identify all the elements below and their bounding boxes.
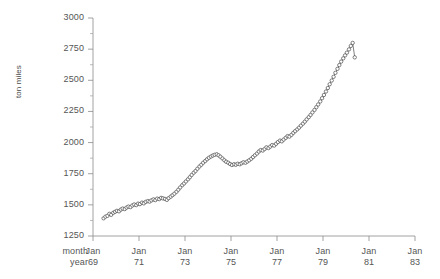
- x-axis-tick-label: Jan77: [257, 246, 297, 268]
- x-axis-row-title-month: month: [62, 246, 88, 256]
- data-series-markers: [102, 41, 357, 220]
- x-axis-tick-month: Jan: [270, 246, 285, 256]
- data-point-marker: [334, 71, 337, 74]
- x-axis-tick-month: Jan: [362, 246, 377, 256]
- x-axis-row-title-year: year: [70, 257, 88, 267]
- y-axis-tick-label: 1250: [36, 230, 84, 240]
- x-axis-tick-label: Jan73: [165, 246, 205, 268]
- data-series-line: [104, 43, 355, 218]
- chart-container: ton miles 125015001750200022502500275030…: [0, 0, 440, 279]
- x-axis-tick-year: 81: [349, 257, 389, 268]
- x-axis-tick-year: 73: [165, 257, 205, 268]
- y-axis-tick-label: 3000: [36, 12, 84, 22]
- x-axis-tick-month: Jan: [224, 246, 239, 256]
- data-point-marker: [336, 67, 339, 70]
- data-point-marker: [338, 63, 341, 66]
- x-axis-tick-label: Jan75: [211, 246, 251, 268]
- y-axis-tick-label: 2500: [36, 74, 84, 84]
- x-axis-tick-month: Jan: [408, 246, 423, 256]
- x-axis-tick-label: Jan79: [303, 246, 343, 268]
- data-point-marker: [330, 79, 333, 82]
- x-axis-tick-label: Jan83: [395, 246, 435, 268]
- x-axis-tick-month: Jan: [316, 246, 331, 256]
- y-axis-tick-label: 2250: [36, 105, 84, 115]
- data-point-marker: [322, 93, 325, 96]
- data-point-marker: [328, 83, 331, 86]
- x-axis-tick-year: 79: [303, 257, 343, 268]
- x-axis-row-titles: month year: [36, 246, 88, 268]
- x-axis-tick-month: Jan: [132, 246, 147, 256]
- y-axis-tick-label: 1750: [36, 168, 84, 178]
- x-axis-tick-year: 83: [395, 257, 435, 268]
- data-point-marker: [339, 60, 342, 63]
- x-axis-tick-label: Jan81: [349, 246, 389, 268]
- y-axis-tick-label: 1500: [36, 199, 84, 209]
- x-axis-tick-year: 77: [257, 257, 297, 268]
- y-axis-tick-label: 2750: [36, 43, 84, 53]
- data-point-marker: [347, 48, 350, 51]
- x-axis-tick-month: Jan: [178, 246, 193, 256]
- x-axis-tick-year: 71: [119, 257, 159, 268]
- x-axis-tick-year: 75: [211, 257, 251, 268]
- data-point-marker: [351, 41, 354, 44]
- y-axis-tick-label: 2000: [36, 137, 84, 147]
- data-point-marker: [324, 90, 327, 93]
- y-axis-ticks: [88, 18, 93, 236]
- data-point-marker: [326, 86, 329, 89]
- data-point-marker: [332, 75, 335, 78]
- x-axis-tick-label: Jan71: [119, 246, 159, 268]
- data-point-marker: [353, 56, 356, 59]
- data-point-marker: [319, 100, 322, 103]
- data-point-marker: [345, 51, 348, 54]
- data-point-marker: [320, 97, 323, 100]
- y-axis-title: ton miles: [14, 28, 23, 98]
- x-axis-ticks: [93, 236, 415, 241]
